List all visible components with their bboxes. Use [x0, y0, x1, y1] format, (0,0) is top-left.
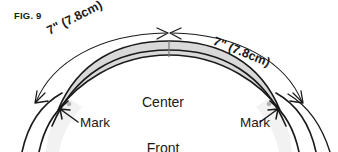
center-front-label: Center Front	[142, 65, 184, 152]
mark-label-left: Mark	[80, 116, 110, 131]
dot-icon-right	[267, 102, 272, 107]
figure-label: FIG. 9	[14, 11, 42, 21]
center-front-line-1: Center	[142, 95, 184, 110]
garment-panel-left	[46, 98, 82, 152]
mark-label-right: Mark	[240, 116, 270, 131]
dot-icon-left	[67, 102, 72, 107]
arrow-left-icon	[35, 91, 48, 103]
garment-seam-right-extra	[288, 94, 330, 152]
center-front-line-2: Front	[142, 141, 184, 152]
figure-9-diagram: FIG. 9 7" (7.8cm) 7" (7.8cm) Center Fron…	[0, 0, 338, 152]
